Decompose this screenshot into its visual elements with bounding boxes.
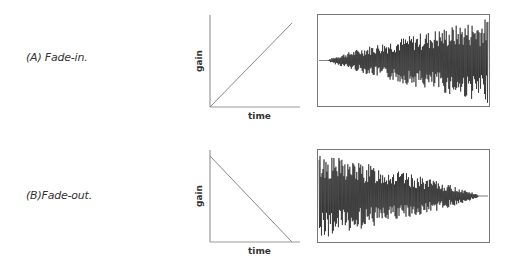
x-axis-title: time [248, 246, 271, 256]
fade-in-waveform [317, 14, 490, 107]
y-axis-title: gain [194, 50, 204, 72]
gain-ramp-down-line [210, 156, 292, 242]
fade-out-waveform [317, 149, 490, 243]
y-axis-title: gain [194, 185, 204, 207]
fade-in-label: (A) Fade-in. [26, 51, 88, 64]
fade-out-label: (B)Fade-out. [26, 189, 92, 202]
gain-ramp-up-line [210, 23, 292, 107]
fade-out-gain-plot: time gain [190, 140, 310, 261]
x-axis-title: time [248, 111, 271, 121]
fade-in-gain-plot: time gain [190, 5, 310, 125]
